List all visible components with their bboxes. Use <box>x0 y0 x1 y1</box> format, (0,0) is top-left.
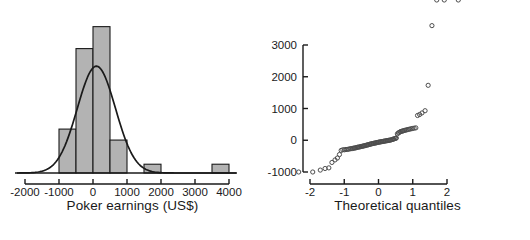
x-axis-tick-label: 2 <box>444 186 450 198</box>
qq-data-point <box>423 109 427 113</box>
qq-data-point <box>337 152 341 156</box>
qq-point-series <box>297 0 461 174</box>
qq-plot: -10000100020003000-2-1012 <box>265 0 530 200</box>
y-axis-tick-label: 3000 <box>271 39 297 51</box>
x-axis-tick-label: 0 <box>375 186 381 198</box>
histogram-bar <box>110 140 127 173</box>
qq-data-point <box>456 0 460 2</box>
x-axis-tick-label: -2 <box>305 186 315 198</box>
histogram-panel: -2000-100001000200030004000 Poker earnin… <box>0 0 265 240</box>
histogram-bar <box>93 27 110 173</box>
qq-x-axis-label: Theoretical quantiles <box>265 198 530 213</box>
x-axis-tick-label: 3000 <box>182 186 208 198</box>
y-axis-tick-label: -1000 <box>268 166 297 178</box>
y-axis-tick-label: 1000 <box>271 103 297 115</box>
qq-data-point <box>318 168 322 172</box>
x-axis-tick-label: 1 <box>410 186 416 198</box>
x-axis-tick-label: 0 <box>90 186 96 198</box>
x-axis-tick-label: 4000 <box>216 186 242 198</box>
histogram-bar <box>59 129 76 173</box>
x-axis-tick-label: 1000 <box>114 186 140 198</box>
x-axis-tick-label: 2000 <box>148 186 174 198</box>
qq-data-point <box>311 170 315 174</box>
y-axis-tick-label: 2000 <box>271 71 297 83</box>
qq-plot-panel: -10000100020003000-2-1012 Theoretical qu… <box>265 0 530 240</box>
histogram-bar <box>212 164 229 173</box>
qq-data-point <box>426 83 430 87</box>
figure-container: -2000-100001000200030004000 Poker earnin… <box>0 0 530 240</box>
x-axis-tick-label: -1 <box>339 186 349 198</box>
qq-data-point <box>442 0 446 2</box>
histogram-plot: -2000-100001000200030004000 <box>0 0 265 200</box>
qq-data-point <box>435 0 439 2</box>
x-axis-tick-label: -2000 <box>10 186 39 198</box>
y-axis-tick-label: 0 <box>291 134 297 146</box>
qq-data-point <box>430 24 434 28</box>
x-axis-tick-label: -1000 <box>44 186 73 198</box>
histogram-x-axis-label: Poker earnings (US$) <box>0 198 265 213</box>
histogram-bar <box>76 49 93 173</box>
qq-data-point <box>297 170 301 174</box>
